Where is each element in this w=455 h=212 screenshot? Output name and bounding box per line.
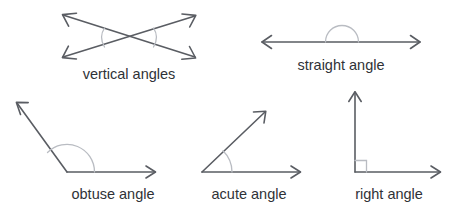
figure-vertical-angles: vertical angles — [62, 13, 195, 82]
figure-obtuse-angle: obtuse angle — [16, 102, 155, 202]
angle-arc-acute — [223, 151, 232, 172]
label-vertical-angles: vertical angles — [83, 66, 176, 82]
figure-right-angle: right angle — [349, 92, 441, 202]
figure-straight-angle: straight angle — [262, 26, 420, 74]
label-obtuse-angle: obtuse angle — [71, 186, 154, 202]
obtuse-angle-ray-upleft — [17, 103, 67, 172]
arrow-head-icon-upper-left — [63, 13, 77, 26]
arrow-head-icon-lower-left — [62, 46, 76, 59]
angle-arc-straight — [326, 26, 359, 43]
diagram-canvas: vertical angles straight angle obtu — [0, 0, 455, 212]
angle-arc-obtuse — [48, 144, 95, 172]
figure-acute-angle: acute angle — [202, 111, 301, 202]
label-acute-angle: acute angle — [212, 186, 287, 202]
right-angle-square-marker-icon — [355, 161, 367, 173]
acute-angle-ray-upright — [202, 112, 265, 172]
angles-diagram: vertical angles straight angle obtu — [0, 0, 455, 212]
label-straight-angle: straight angle — [297, 57, 384, 73]
arrow-head-icon-upper-right — [182, 14, 196, 27]
label-right-angle: right angle — [355, 186, 423, 202]
